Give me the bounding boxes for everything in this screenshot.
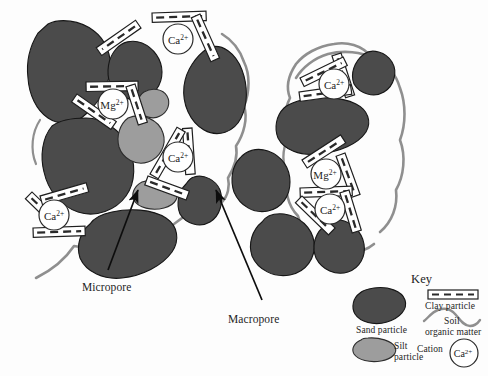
legend-clay-particle-swatch	[428, 290, 478, 299]
cation-charge: 2+	[329, 168, 337, 177]
sand-particle	[178, 176, 222, 225]
cation-ca-bottom-right: Ca2+	[315, 194, 345, 224]
cation-ca-top-right: Ca2+	[319, 69, 349, 99]
cation-charge: 2+	[332, 203, 340, 212]
cation-charge: 2+	[180, 33, 188, 42]
cation-charge: 2+	[56, 209, 64, 218]
cation-label: Ca	[168, 34, 180, 46]
legend-cation-swatch: Ca2+	[450, 339, 478, 367]
key-organic-matter-label-line1: Soil	[444, 316, 460, 326]
sand-particle	[276, 98, 369, 155]
legend-cation-charge: 2+	[465, 348, 473, 356]
key-clay-particle-label: Clay particle	[425, 301, 475, 311]
cation-label: Mg	[100, 99, 116, 111]
key-cation-label: Cation	[417, 344, 443, 354]
organic-matter-boundary-left-inner	[33, 120, 40, 164]
key-sand-particle-label: Sand particle	[356, 325, 407, 335]
key-title: Key	[411, 272, 432, 287]
cation-ca-mid-left: Ca2+	[163, 142, 193, 172]
cation-ca-bottom-left: Ca2+	[39, 200, 69, 230]
cation-charge: 2+	[180, 151, 188, 160]
soil-structure-figure: Ca2+ Mg2+ Ca2+ Ca2+	[0, 0, 488, 376]
cation-label: Ca	[320, 204, 332, 216]
legend-sand-particle-swatch	[353, 288, 406, 324]
cation-label: Ca	[324, 79, 336, 91]
cation-charge: 2+	[116, 98, 124, 107]
macropore-label: Macropore	[228, 313, 279, 325]
cation-mg-right: Mg2+	[311, 159, 341, 189]
key-organic-matter-label-line2: organic matter	[425, 327, 481, 337]
cation-ca-top-left: Ca2+	[163, 24, 193, 54]
cation-charge: 2+	[336, 78, 344, 87]
cation-label: Ca	[168, 152, 180, 164]
sand-particle	[232, 149, 290, 211]
sand-particle	[250, 214, 314, 276]
legend-silt-particle-swatch	[353, 338, 396, 362]
sand-particle	[352, 51, 394, 95]
cation-mg-left: Mg2+	[98, 89, 128, 119]
key-silt-particle-label-line1: Silt	[394, 341, 408, 351]
legend-cation-symbol: Ca	[454, 348, 466, 359]
cation-label: Mg	[313, 169, 329, 181]
cation-label: Ca	[44, 210, 56, 222]
micropore-label: Micropore	[82, 281, 131, 293]
